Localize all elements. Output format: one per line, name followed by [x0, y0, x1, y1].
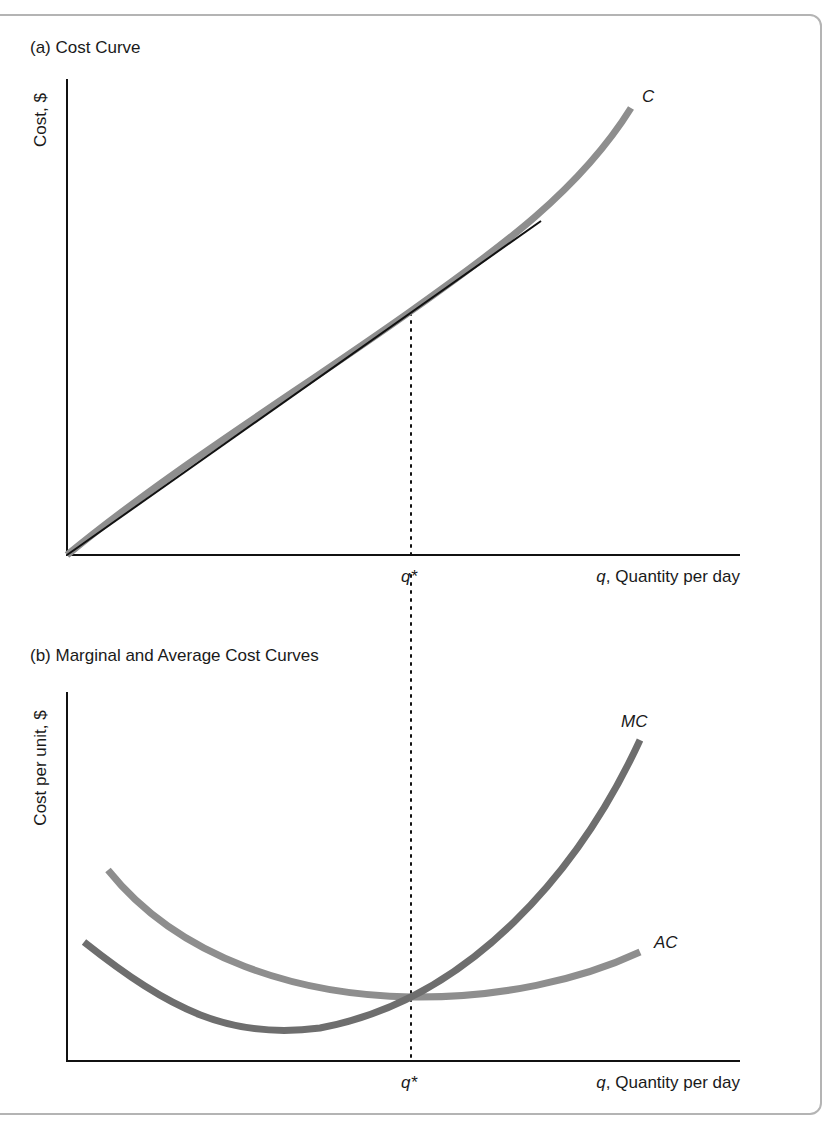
marginal-cost-label: MC — [621, 712, 648, 731]
panel-a-y-axis-label: Cost, $ — [31, 93, 50, 147]
panel-b: (b) Marginal and Average Cost Curves Cos… — [30, 575, 740, 1092]
panel-a-x-axis-label: q, Quantity per day — [596, 567, 740, 586]
marginal-cost-curve — [84, 740, 640, 1031]
figure-canvas: (a) Cost Curve Cost, $ C q* q, Quantity … — [0, 0, 833, 1125]
tangent-ray-line — [67, 221, 541, 555]
panel-b-qstar-label: q* — [401, 1073, 418, 1092]
cost-curve-label: C — [642, 87, 655, 106]
panel-a-qstar-label: q* — [401, 567, 418, 586]
panel-b-y-axis-label: Cost per unit, $ — [31, 710, 50, 826]
panel-a-title: (a) Cost Curve — [30, 38, 141, 57]
panel-a: (a) Cost Curve Cost, $ C q* q, Quantity … — [30, 38, 740, 586]
average-cost-curve — [108, 870, 640, 997]
panel-b-x-axis-label: q, Quantity per day — [596, 1073, 740, 1092]
cost-curve-c — [67, 108, 631, 555]
average-cost-label: AC — [653, 933, 678, 952]
panel-b-title: (b) Marginal and Average Cost Curves — [30, 646, 319, 665]
